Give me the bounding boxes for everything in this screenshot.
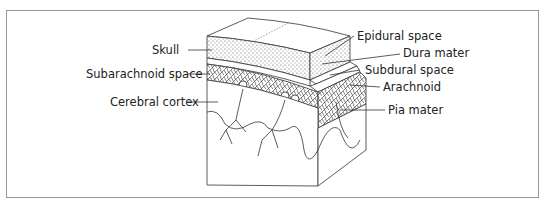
- label-epidural-space: Epidural space: [357, 29, 442, 43]
- label-subdural-space: Subdural space: [365, 63, 454, 77]
- label-cerebral-cortex: Cerebral cortex: [110, 95, 199, 109]
- label-dura-mater: Dura mater: [403, 46, 469, 60]
- meninges-illustration: [0, 0, 548, 207]
- label-skull: Skull: [152, 43, 179, 57]
- label-pia-mater: Pia mater: [388, 103, 443, 117]
- label-arachnoid: Arachnoid: [383, 80, 441, 94]
- label-subarachnoid-space: Subarachnoid space: [86, 67, 203, 81]
